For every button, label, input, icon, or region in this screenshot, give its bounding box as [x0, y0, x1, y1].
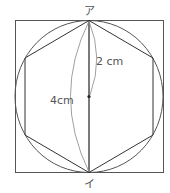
radius-label: 2 cm	[96, 55, 123, 68]
vertex-label-bottom: イ	[84, 178, 95, 191]
vertex-label-top: ア	[84, 5, 95, 18]
geometry-diagram: ア イ 2 cm 4cm	[0, 0, 170, 193]
diameter-label: 4cm	[50, 94, 74, 107]
center-point	[87, 95, 90, 98]
